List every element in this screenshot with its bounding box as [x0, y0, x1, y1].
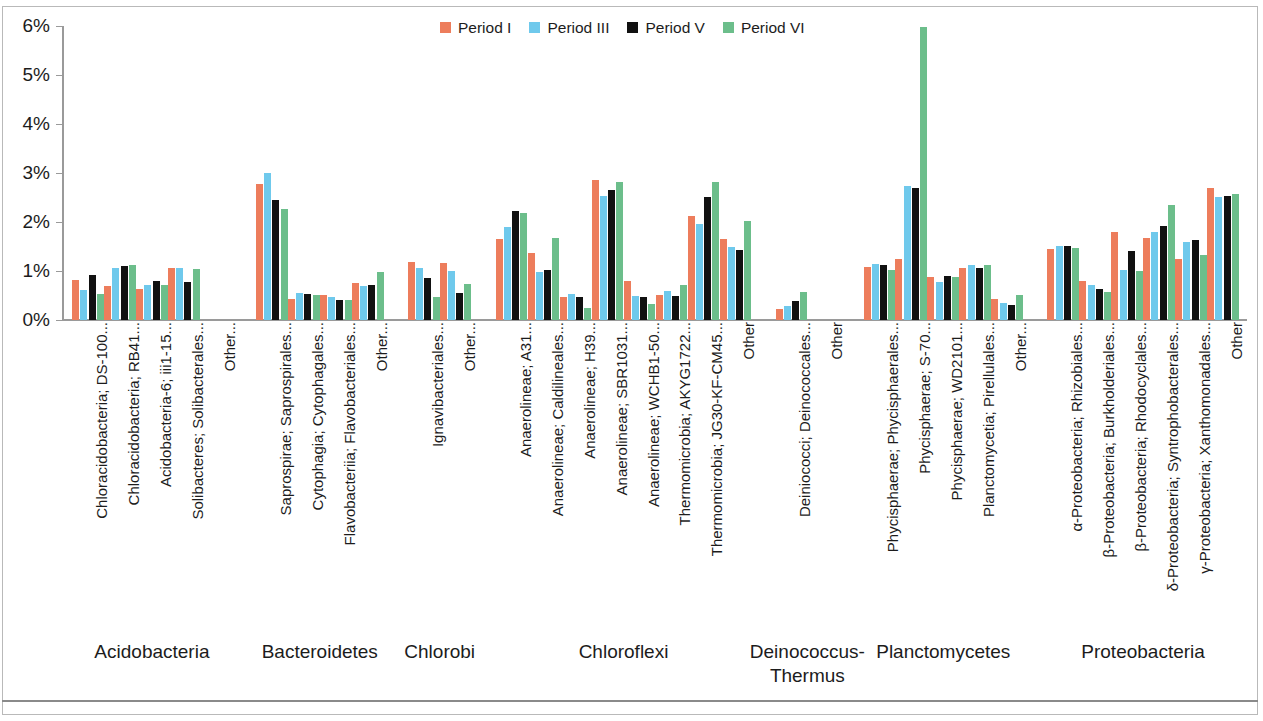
bar: [576, 297, 583, 320]
y-axis-tick-label: 1%: [23, 260, 50, 282]
bar: [1079, 281, 1086, 320]
bar: [1120, 270, 1127, 320]
x-axis-category-label: Other: [1229, 322, 1244, 360]
x-axis-category-label: Other...: [222, 322, 237, 371]
bar: [552, 238, 559, 320]
x-axis-category-label: Chloracidobacteria; DS-100...: [94, 322, 109, 519]
bar: [888, 270, 895, 320]
bar: [512, 211, 519, 320]
bar: [129, 265, 136, 320]
x-axis-category-label: Flavobacteriia; Flavobacteriales...: [342, 322, 357, 545]
bar: [80, 290, 87, 320]
bar: [1215, 197, 1222, 320]
bar: [72, 280, 79, 320]
bar: [1064, 246, 1071, 320]
bar: [1056, 246, 1063, 320]
bar: [656, 295, 663, 320]
bar: [256, 184, 263, 320]
bar: [560, 297, 567, 320]
bar: [1104, 292, 1111, 320]
x-axis-category-label: β-Proteobacteria; Burkholderiales...: [1101, 322, 1116, 557]
bar: [336, 300, 343, 320]
bar: [313, 295, 320, 320]
bar: [368, 285, 375, 320]
bar: [136, 289, 143, 320]
bar: [648, 304, 655, 320]
bar: [1047, 249, 1054, 320]
x-axis-category-label: Anaerolineae; H39...: [582, 322, 597, 459]
bar: [920, 27, 927, 320]
y-axis-tick-label: 2%: [23, 211, 50, 233]
bar: [872, 264, 879, 320]
bar: [776, 309, 783, 320]
bar: [1151, 232, 1158, 320]
bars-layer: [62, 26, 1247, 320]
bar: [352, 283, 359, 320]
bar: [1183, 242, 1190, 320]
x-axis-category-label: Other...: [374, 322, 389, 371]
x-axis-category-label: Other...: [1013, 322, 1028, 371]
bar: [616, 182, 623, 320]
x-axis-category-label: Acidobacteria-6; iii1-15...: [158, 322, 173, 487]
bar: [408, 262, 415, 320]
plot-area: 0%1%2%3%4%5%6%: [62, 26, 1247, 320]
x-axis-group-label: Chloroflexi: [579, 640, 669, 664]
x-axis-group-labels: AcidobacteriaBacteroidetesChlorobiChloro…: [0, 640, 1263, 715]
bar: [360, 286, 367, 320]
bar: [1175, 259, 1182, 320]
bar: [736, 250, 743, 320]
bar: [184, 282, 191, 320]
x-axis-group-label: Chlorobi: [404, 640, 475, 664]
bar: [1008, 305, 1015, 320]
x-axis-category-label: Saprospirae; Saprospirales...: [278, 322, 293, 515]
bar: [904, 186, 911, 320]
bar: [568, 294, 575, 320]
x-axis-category-label: Anaerolineae; WCHB1-50...: [646, 322, 661, 507]
bar: [520, 213, 527, 320]
x-axis-category-label: Phycisphaerae; S-70...: [917, 322, 932, 474]
bar: [1207, 188, 1214, 320]
bar: [1224, 196, 1231, 320]
bar: [952, 277, 959, 320]
bar: [288, 299, 295, 320]
bar: [784, 306, 791, 320]
x-axis-group-label: Proteobacteria: [1081, 640, 1205, 664]
x-axis-group-label: Deinococcus- Thermus: [750, 640, 865, 688]
bar: [720, 239, 727, 320]
bar: [959, 268, 966, 320]
bar: [1088, 285, 1095, 320]
bar: [728, 247, 735, 320]
bar: [345, 300, 352, 320]
x-axis-group-label: Planctomycetes: [876, 640, 1010, 664]
bar: [976, 268, 983, 320]
x-axis-group-label: Bacteroidetes: [262, 640, 378, 664]
bar: [464, 284, 471, 320]
bar: [496, 239, 503, 320]
bar: [456, 293, 463, 320]
bar: [792, 301, 799, 320]
bar: [864, 267, 871, 320]
x-axis-category-label: Phycisphaerae; WD2101...: [949, 322, 964, 500]
bar: [176, 268, 183, 320]
x-axis-category-label: Other...: [462, 322, 477, 371]
bar: [672, 296, 679, 321]
x-axis-category-label: β-Proteobacteria; Rhodocyclales...: [1133, 322, 1148, 552]
bar: [1160, 226, 1167, 320]
bar: [1111, 232, 1118, 320]
bar: [880, 265, 887, 320]
bar: [680, 285, 687, 320]
bar: [272, 200, 279, 320]
bar: [97, 294, 104, 320]
bar: [800, 292, 807, 320]
x-axis-category-label: Ignavibacteriales...: [430, 322, 445, 447]
bar: [320, 295, 327, 320]
bar: [416, 268, 423, 320]
x-axis-category-label: Anaerolineae; A31...: [518, 322, 533, 457]
bar: [304, 294, 311, 320]
bar: [104, 286, 111, 320]
x-axis-category-label: Anaerolineae; SBR1031...: [614, 322, 629, 495]
bar: [121, 266, 128, 320]
x-axis-category-label: δ-Proteobacteria; Syntrophobacterales...: [1165, 322, 1180, 591]
bar: [1168, 205, 1175, 320]
y-axis-tick-label: 0%: [23, 309, 50, 331]
